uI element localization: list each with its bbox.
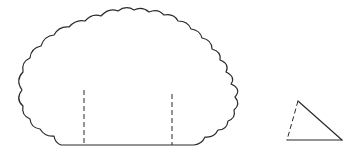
scalloped-outline <box>19 8 238 145</box>
triangle-hypotenuse <box>298 101 342 140</box>
diagram-canvas <box>0 0 358 160</box>
triangle <box>287 101 342 140</box>
scalloped-shape <box>19 8 238 145</box>
triangle-dashed-edge <box>287 101 298 140</box>
